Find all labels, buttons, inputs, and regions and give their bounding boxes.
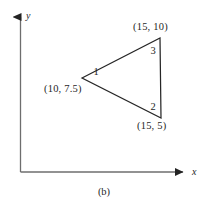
- edge-label-2: 2: [150, 102, 155, 113]
- top-right-vertex-coord-label: (15, 10): [133, 22, 168, 33]
- figure-panel-b: y x (15, 10) (10, 7.5) (15, 5) 1 3 2 (b): [0, 0, 209, 206]
- triangle-shape: [82, 38, 161, 118]
- figure-canvas: [0, 0, 209, 206]
- y-axis-label: y: [26, 11, 30, 21]
- left-vertex-coord-label: (10, 7.5): [44, 84, 82, 95]
- edge-label-1: 1: [93, 67, 98, 78]
- bottom-right-vertex-coord-label: (15, 5): [137, 121, 166, 132]
- figure-caption: (b): [98, 187, 110, 198]
- x-axis-label: x: [192, 167, 196, 177]
- edge-label-3: 3: [150, 46, 155, 57]
